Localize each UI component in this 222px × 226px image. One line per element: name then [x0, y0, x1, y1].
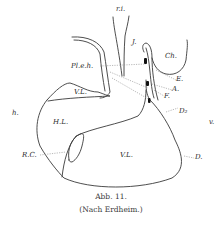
label-ri: r.i.	[116, 6, 125, 13]
label-e: E.	[176, 76, 183, 83]
marker-middle	[146, 81, 149, 86]
label-j: J.	[132, 39, 137, 46]
stalk-right-line	[124, 16, 129, 76]
label-d: D.	[195, 154, 203, 161]
leader-pleh-2	[110, 72, 148, 88]
caption-figure-number: Abb. 11.	[0, 193, 222, 201]
label-v: v.	[209, 119, 214, 126]
label-f: F.	[164, 93, 170, 100]
label-h: h.	[12, 110, 19, 117]
label-hl: H.L.	[53, 119, 68, 126]
label-d2: D₂	[179, 108, 187, 115]
leader-d2	[166, 108, 178, 112]
marker-top	[144, 58, 147, 64]
label-rc: R.C.	[22, 152, 37, 159]
rc-loop	[69, 134, 84, 162]
leader-pleh-3	[112, 78, 150, 100]
stalk-left-line	[113, 17, 122, 76]
label-a: A.	[172, 86, 179, 93]
anatomical-diagram: r.i. J. Ch. Pl.e.h. E. A. F. V.L. D₂ h. …	[0, 0, 222, 226]
label-pleh: Pl.e.h.	[71, 63, 93, 70]
label-ch: Ch.	[165, 53, 177, 60]
marker-bottom	[148, 98, 151, 103]
hl-vl-divider	[62, 90, 146, 177]
caption-source: (Nach Erdheim.)	[0, 206, 222, 214]
leader-d	[184, 156, 194, 158]
leader-pleh-1	[100, 64, 146, 66]
label-vl-lower: V.L.	[120, 152, 133, 159]
label-vl-upper: V.L.	[74, 89, 87, 96]
leader-e	[156, 70, 176, 80]
